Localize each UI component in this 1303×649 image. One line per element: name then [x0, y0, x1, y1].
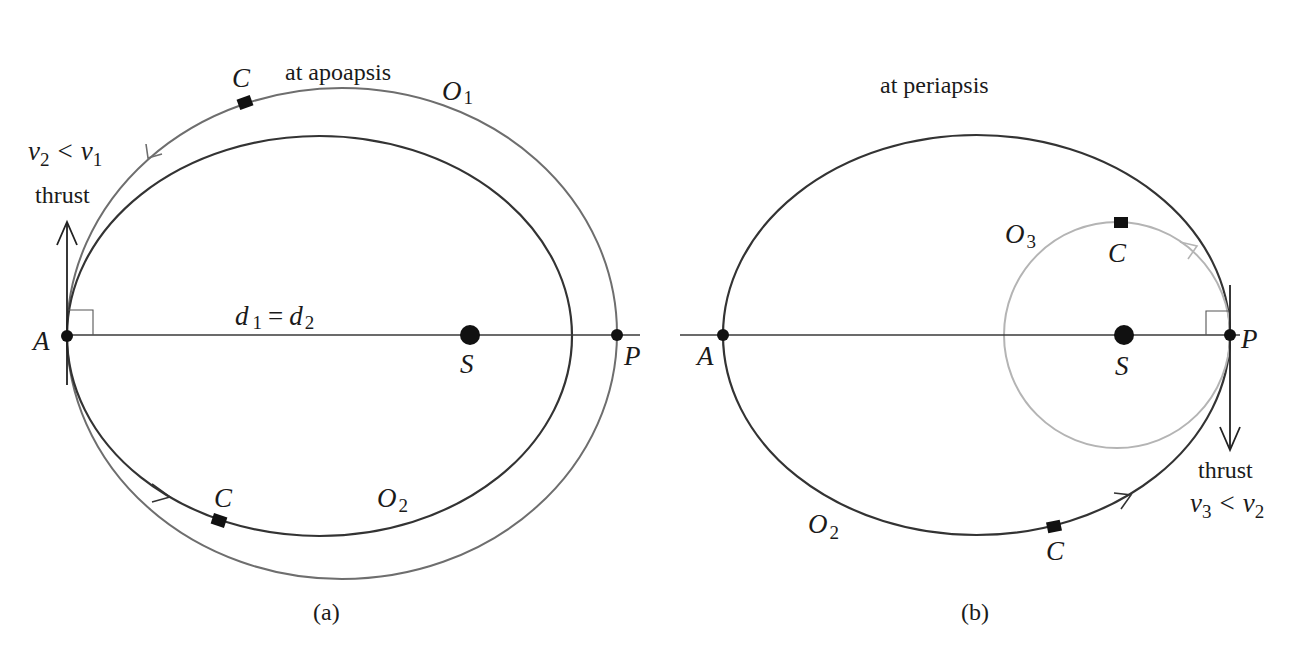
- craft-marker: [237, 95, 254, 110]
- orbit-label-o2: O2: [377, 483, 408, 516]
- point-p-label: P: [623, 341, 641, 371]
- point-p-label: P: [1240, 324, 1258, 354]
- thrust-label: thrust: [35, 182, 90, 208]
- craft-marker: [1114, 217, 1128, 228]
- caption-b: (b): [961, 599, 989, 625]
- point-a-label: A: [695, 341, 714, 371]
- point-p: [1224, 329, 1236, 341]
- craft-label: C: [214, 483, 233, 513]
- orbit-o2: [67, 136, 572, 536]
- event-label: at apoapsis: [285, 59, 391, 85]
- panel-b: at periapsis O3 C A S P thrust v3<v2 O2 …: [680, 72, 1264, 625]
- right-angle-mark: [67, 310, 93, 335]
- orbit-maneuver-figure: at apoapsis C O1 v2<v1 thrust d1=d2 A S …: [0, 0, 1303, 649]
- focus-s-label: S: [460, 349, 474, 379]
- direction-arrow-icon: [1180, 242, 1197, 259]
- craft-marker: [1046, 520, 1062, 534]
- velocity-relation: v2<v1: [28, 136, 102, 170]
- caption-a: (a): [313, 599, 340, 625]
- point-a: [717, 329, 729, 341]
- point-a: [61, 330, 73, 342]
- event-label: at periapsis: [880, 72, 989, 98]
- craft-label: C: [232, 63, 251, 93]
- orbit-o1: [67, 88, 617, 579]
- velocity-relation: v3<v2: [1190, 488, 1264, 522]
- thrust-label: thrust: [1198, 457, 1253, 483]
- craft-label: C: [1046, 536, 1065, 566]
- point-p: [611, 329, 623, 341]
- craft-label: C: [1108, 238, 1127, 268]
- focus-s: [460, 325, 480, 345]
- distance-relation: d1=d2: [235, 301, 314, 333]
- orbit-label-o2: O2: [808, 509, 839, 543]
- orbit-label-o1: O1: [442, 76, 473, 108]
- craft-marker: [211, 513, 228, 528]
- panel-a: at apoapsis C O1 v2<v1 thrust d1=d2 A S …: [28, 59, 641, 625]
- focus-s-label: S: [1115, 351, 1129, 381]
- point-a-label: A: [31, 326, 50, 356]
- orbit-label-o3: O3: [1005, 219, 1036, 252]
- focus-s: [1114, 325, 1134, 345]
